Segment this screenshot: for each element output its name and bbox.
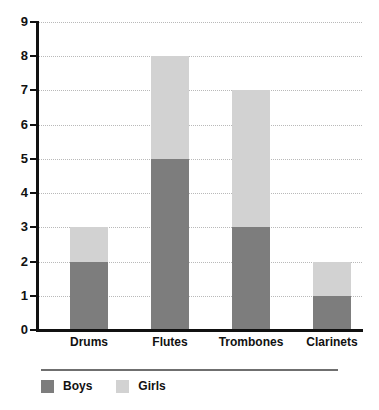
y-tick-6 [30,124,37,126]
y-tick-7 [30,89,37,91]
bar-segment-clarinets-girls[interactable] [313,262,351,296]
y-axis-labels: 0123456789 [0,0,28,410]
y-tick-label-7: 7 [6,83,28,96]
y-tick-label-8: 8 [6,49,28,62]
y-tick-label-9: 9 [6,15,28,28]
legend-label-boys: Boys [63,380,92,392]
y-tick-3 [30,226,37,228]
y-tick-1 [30,295,37,297]
y-tick-8 [30,55,37,57]
y-tick-9 [30,21,37,23]
bar-group-drums[interactable] [70,22,108,330]
bar-segment-flutes-boys[interactable] [151,159,189,330]
y-tick-2 [30,261,37,263]
chart-legend: BoysGirls [41,378,190,394]
y-tick-label-4: 4 [6,186,28,199]
bar-group-flutes[interactable] [151,22,189,330]
bar-group-clarinets[interactable] [313,22,351,330]
y-tick-label-3: 3 [6,220,28,233]
y-tick-label-0: 0 [6,323,28,336]
bar-chart: 0123456789 DrumsFlutesTrombonesClarinets… [0,0,379,410]
y-tick-label-5: 5 [6,152,28,165]
x-axis-line [36,329,363,332]
bar-group-trombones[interactable] [232,22,270,330]
legend-item-boys[interactable]: Boys [41,380,92,393]
y-tick-5 [30,158,37,160]
bar-segment-clarinets-boys[interactable] [313,296,351,330]
legend-swatch-girls [116,380,129,393]
legend-swatch-boys [41,380,54,393]
legend-separator [41,369,338,371]
x-axis-label-clarinets: Clarinets [289,336,375,349]
bar-segment-flutes-girls[interactable] [151,56,189,159]
legend-item-girls[interactable]: Girls [116,380,165,393]
x-axis-label-drums: Drums [46,336,132,349]
bar-segment-drums-boys[interactable] [70,262,108,330]
y-tick-label-2: 2 [6,255,28,268]
bar-segment-trombones-boys[interactable] [232,227,270,330]
plot-area [38,22,362,330]
bar-segment-trombones-girls[interactable] [232,90,270,227]
y-axis-line [36,21,39,332]
x-axis-label-trombones: Trombones [208,336,294,349]
x-axis-label-flutes: Flutes [127,336,213,349]
y-tick-4 [30,192,37,194]
bar-segment-drums-girls[interactable] [70,227,108,261]
y-tick-label-1: 1 [6,289,28,302]
y-tick-0 [30,329,37,331]
legend-label-girls: Girls [138,380,165,392]
y-tick-label-6: 6 [6,118,28,131]
